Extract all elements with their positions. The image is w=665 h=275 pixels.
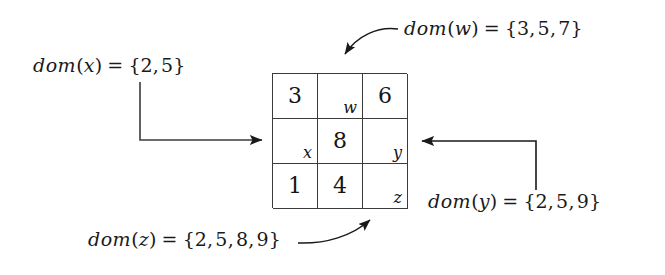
dom-x-equals: = xyxy=(107,54,123,76)
domain-annotation-figure: 3 w 6 x 8 y 1 4 xyxy=(0,0,665,275)
dom-y-equals: = xyxy=(502,190,518,212)
dom-x-comma: , xyxy=(153,54,159,76)
dom-y-value: 5 xyxy=(556,190,568,212)
grid-cell[interactable]: x xyxy=(273,119,318,164)
cell-value: 1 xyxy=(273,173,317,198)
grid-cell[interactable]: w xyxy=(318,74,363,119)
label-dom-w: dom(w)={3,5,7} xyxy=(404,19,583,38)
dom-z-variable: z xyxy=(139,228,149,250)
arrow-dom-z xyxy=(298,220,370,243)
grid-cell[interactable]: 6 xyxy=(363,74,408,119)
grid-cell[interactable]: 3 xyxy=(273,74,318,119)
cell-variable-label: y xyxy=(393,144,402,162)
dom-w-close-brace: } xyxy=(570,17,582,39)
dom-w-variable: w xyxy=(455,17,471,39)
dom-y-variable: y xyxy=(479,190,490,212)
dom-x-value: 2 xyxy=(141,54,153,76)
dom-z-function: dom xyxy=(88,228,131,250)
cell-value: 3 xyxy=(273,83,317,108)
cell-variable-label: x xyxy=(303,144,312,162)
dom-y-comma: , xyxy=(568,190,574,212)
dom-w-open-brace: { xyxy=(505,17,517,39)
grid-cell[interactable]: z xyxy=(363,164,408,209)
dom-w-comma: , xyxy=(550,17,556,39)
dom-x-open-paren: ( xyxy=(76,54,84,76)
dom-y-close-paren: ) xyxy=(490,190,498,212)
dom-w-value: 7 xyxy=(558,17,570,39)
dom-x-value: 5 xyxy=(161,54,173,76)
grid-cell[interactable]: 4 xyxy=(318,164,363,209)
dom-y-function: dom xyxy=(428,190,471,212)
dom-z-comma: , xyxy=(207,228,213,250)
dom-z-value: 9 xyxy=(256,228,268,250)
label-dom-z: dom(z)={2,5,8,9} xyxy=(88,230,281,249)
dom-x-close-paren: ) xyxy=(95,54,103,76)
cell-variable-label: z xyxy=(394,189,402,207)
cell-value: 8 xyxy=(318,128,362,153)
cell-value: 4 xyxy=(318,173,362,198)
dom-z-comma: , xyxy=(248,228,254,250)
dom-x-close-brace: } xyxy=(173,54,185,76)
dom-z-close-paren: ) xyxy=(149,228,157,250)
grid-cell[interactable]: 8 xyxy=(318,119,363,164)
dom-w-value: 3 xyxy=(517,17,529,39)
dom-x-variable: x xyxy=(84,54,95,76)
dom-z-value: 8 xyxy=(236,228,248,250)
label-dom-y: dom(y)={2,5,9} xyxy=(428,192,601,211)
dom-w-function: dom xyxy=(404,17,447,39)
dom-x-open-brace: { xyxy=(128,54,140,76)
dom-w-comma: , xyxy=(529,17,535,39)
dom-y-comma: , xyxy=(548,190,554,212)
dom-z-comma: , xyxy=(228,228,234,250)
dom-y-open-paren: ( xyxy=(471,190,479,212)
dom-z-value: 2 xyxy=(195,228,207,250)
cell-value: 6 xyxy=(363,83,407,108)
dom-z-close-brace: } xyxy=(269,228,281,250)
dom-w-open-paren: ( xyxy=(447,17,455,39)
cell-variable-label: w xyxy=(343,99,357,117)
dom-w-value: 5 xyxy=(538,17,550,39)
dom-w-close-paren: ) xyxy=(471,17,479,39)
dom-w-equals: = xyxy=(484,17,500,39)
dom-y-open-brace: { xyxy=(523,190,535,212)
dom-z-open-brace: { xyxy=(183,228,195,250)
dom-z-equals: = xyxy=(162,228,178,250)
sudoku-grid: 3 w 6 x 8 y 1 4 xyxy=(272,73,407,208)
dom-y-close-brace: } xyxy=(589,190,601,212)
label-dom-x: dom(x)={2,5} xyxy=(33,56,185,75)
dom-y-value: 9 xyxy=(577,190,589,212)
dom-y-value: 2 xyxy=(536,190,548,212)
arrow-dom-y xyxy=(422,141,536,190)
arrow-dom-x xyxy=(140,82,262,140)
dom-z-value: 5 xyxy=(215,228,227,250)
arrow-dom-w xyxy=(345,28,398,54)
dom-x-function: dom xyxy=(33,54,76,76)
grid-cell[interactable]: y xyxy=(363,119,408,164)
grid-cell[interactable]: 1 xyxy=(273,164,318,209)
dom-z-open-paren: ( xyxy=(131,228,139,250)
